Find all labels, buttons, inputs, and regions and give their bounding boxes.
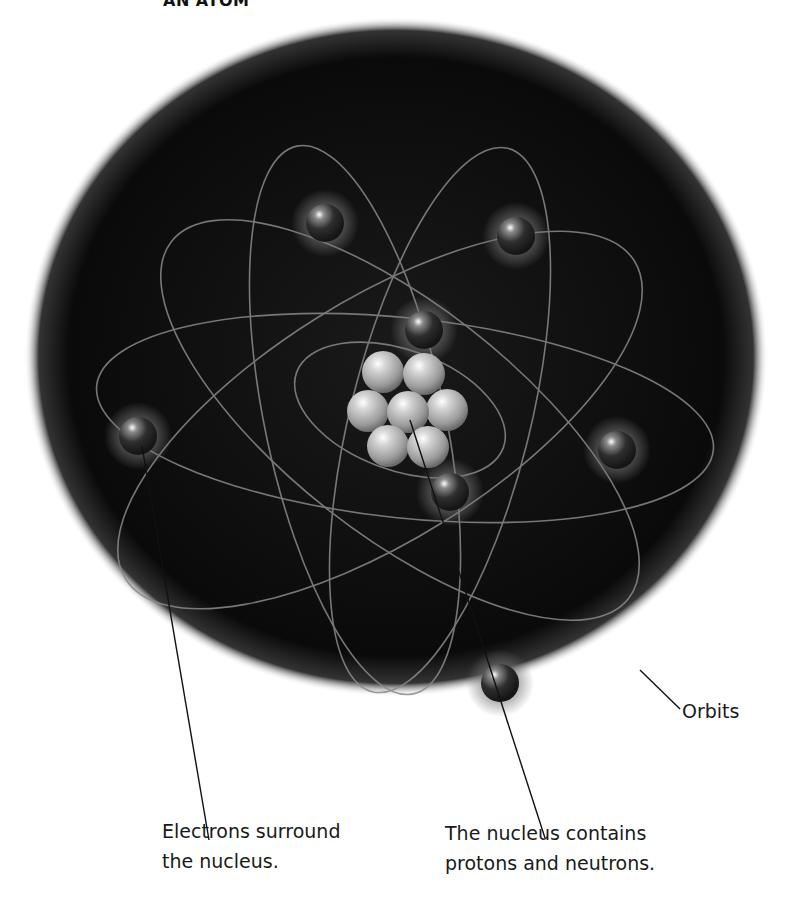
electron: [405, 311, 443, 349]
label-electrons-line-1: Electrons surround: [162, 816, 340, 846]
nucleus-particle: [367, 425, 409, 467]
leader-line-orbits: [640, 670, 680, 709]
label-nucleus: The nucleus contains protons and neutron…: [445, 818, 655, 878]
nucleus-particle: [426, 389, 468, 431]
electron: [431, 473, 469, 511]
atom-diagram: [0, 0, 792, 907]
electron: [119, 417, 157, 455]
electron: [598, 431, 636, 469]
nucleus-particle: [362, 351, 404, 393]
nucleus-particle: [403, 353, 445, 395]
electron: [306, 204, 344, 242]
label-electrons-line-2: the nucleus.: [162, 846, 340, 876]
label-orbits: Orbits: [682, 696, 739, 726]
electron: [497, 217, 535, 255]
label-electrons: Electrons surround the nucleus.: [162, 816, 340, 876]
label-nucleus-line-1: The nucleus contains: [445, 818, 655, 848]
electron: [481, 664, 519, 702]
label-nucleus-line-2: protons and neutrons.: [445, 848, 655, 878]
